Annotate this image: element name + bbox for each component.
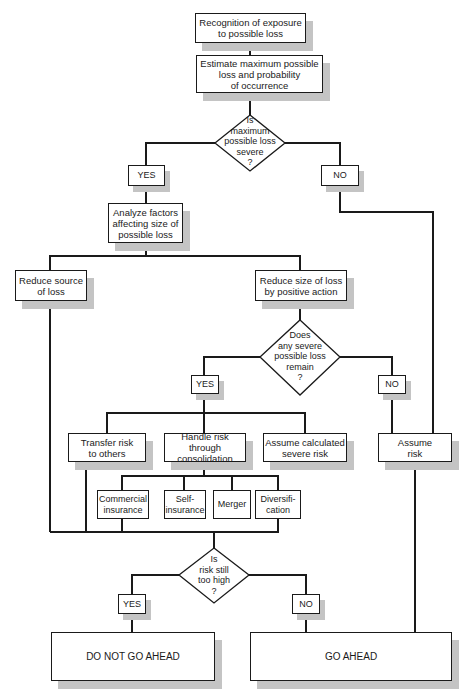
yes-label-1: YES [128,165,165,186]
no-label-3: NO [292,594,320,614]
diversification-box: Diversifi- cation [255,490,301,519]
do-not-go-ahead-box: DO NOT GO AHEAD [51,632,215,681]
no-label-1: NO [321,165,359,186]
go-ahead-box: GO AHEAD [250,632,452,681]
handle-risk-box: Handle risk through consolidation [164,433,246,462]
transfer-risk-box: Transfer risk to others [68,433,146,462]
reduce-size-box: Reduce size of loss by positive action [255,270,347,301]
risk-management-flowchart: Recognition of exposure to possible loss… [0,0,464,698]
estimate-box: Estimate maximum possible loss and proba… [196,55,323,93]
yes-label-3: YES [118,594,146,614]
yes-label-2: YES [191,375,219,394]
commercial-insurance-box: Commercial insurance [97,490,149,519]
decision-too-high-label: Is risk still too high ? [174,554,254,596]
reduce-source-box: Reduce source of loss [15,270,87,301]
self-insurance-box: Self- insurance [164,490,206,519]
no-label-2: NO [378,375,406,394]
decision-remain-label: Does any severe possible loss remain ? [255,330,345,383]
analyze-box: Analyze factors affecting size of possib… [108,203,183,243]
decision-severe-label: Is maximum possible loss severe ? [205,115,295,168]
recognition-box: Recognition of exposure to possible loss [195,13,306,43]
merger-box: Merger [213,490,251,519]
assume-calculated-box: Assume calculated severe risk [263,433,347,462]
assume-risk-box: Assume risk [378,433,452,462]
